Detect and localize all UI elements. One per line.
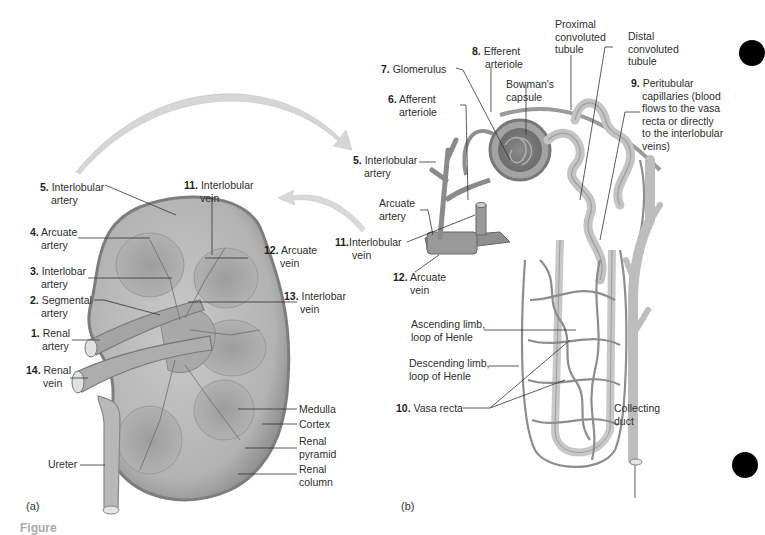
arrow-a-to-b [76, 94, 352, 174]
label-interlobular-artery-a: 5. Interlobularartery [40, 181, 104, 206]
label-proximal-convoluted-tubule: Proximalconvolutedtubule [555, 18, 606, 56]
label-efferent-arteriole: 8. Efferentarteriole [472, 45, 523, 70]
label-arcuate-artery-b: Arcuateartery [379, 197, 415, 222]
label-arcuate-artery-a: 4. Arcuateartery [30, 226, 77, 251]
label-interlobar-artery: 3. Interlobarartery [30, 265, 86, 290]
label-arcuate-vein-a: 12. Arcuatevein [264, 244, 317, 269]
label-glomerulus: 7. Glomerulus [381, 63, 446, 76]
label-renal-column: Renalcolumn [299, 463, 333, 488]
label-afferent-arteriole: 6. Afferentarteriole [388, 93, 437, 118]
label-interlobular-vein-b: 11.Interlobularvein [335, 236, 402, 261]
label-peritubular-capillaries: 9. Peritubularcapillaries (bloodflows to… [631, 77, 723, 152]
label-interlobar-vein: 13. Interlobarvein [284, 290, 346, 315]
label-renal-artery: 1. Renalartery [31, 327, 70, 352]
label-segmental-artery: 2. Segmentalartery [30, 294, 92, 319]
label-ascending-limb: Ascending limb,loop of Henle [411, 318, 485, 343]
label-renal-vein: 14. Renalvein [26, 364, 71, 389]
label-collecting-duct: Collectingduct [614, 402, 660, 427]
label-distal-convoluted-tubule: Distalconvolutedtubule [628, 30, 679, 68]
label-renal-pyramid: Renalpyramid [299, 435, 336, 460]
label-cortex: Cortex [299, 418, 330, 431]
label-ureter: Ureter [48, 458, 77, 471]
label-vasa-recta: 10. Vasa recta [396, 402, 463, 415]
label-descending-limb: Descending limb,loop of Henle [409, 357, 490, 382]
label-interlobular-artery-b: 5. Interlobularartery [353, 154, 417, 179]
figure-caption-partial: Figure [20, 522, 57, 535]
panel-label-a: (a) [26, 500, 39, 512]
kidney-section [72, 197, 289, 514]
label-interlobular-vein-a: 11. Interlobularvein [184, 179, 253, 204]
label-medulla: Medulla [299, 403, 336, 416]
label-bowmans-capsule: Bowman'scapsule [506, 78, 554, 103]
panel-label-b: (b) [401, 500, 414, 512]
label-arcuate-vein-b: 12. Arcuatevein [393, 271, 446, 296]
margin-dot-bottom [732, 452, 758, 478]
arrow-b-to-a [278, 190, 365, 232]
margin-dot-top [739, 40, 765, 66]
